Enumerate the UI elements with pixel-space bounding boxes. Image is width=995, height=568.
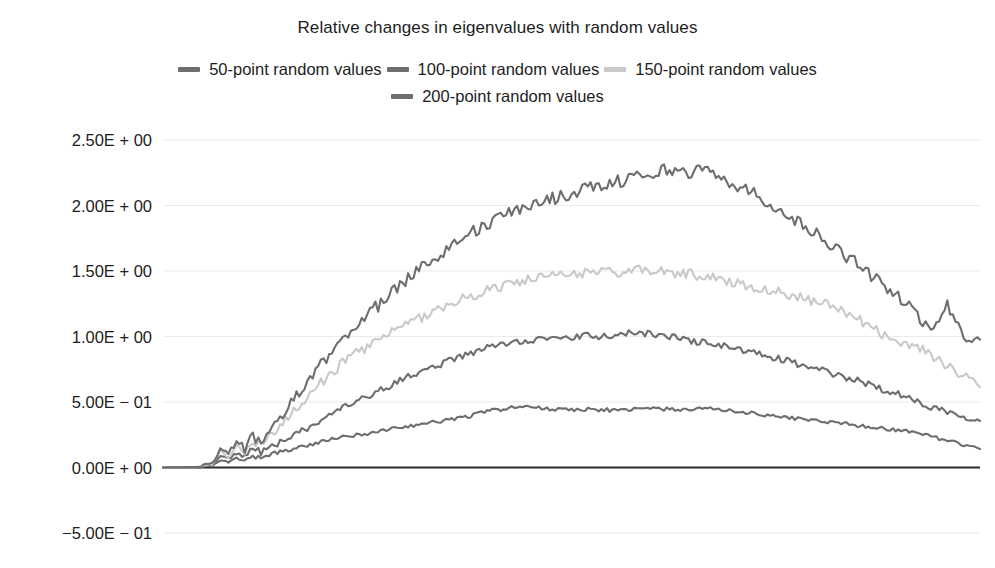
series-line-100-point <box>163 330 980 467</box>
series-line-150-point <box>163 266 980 468</box>
chart-series-group <box>163 164 980 467</box>
series-line-200-point <box>163 164 980 467</box>
chart-gridlines <box>163 140 980 533</box>
chart-plot-area <box>0 0 995 568</box>
chart-figure: Relative changes in eigenvalues with ran… <box>0 0 995 568</box>
